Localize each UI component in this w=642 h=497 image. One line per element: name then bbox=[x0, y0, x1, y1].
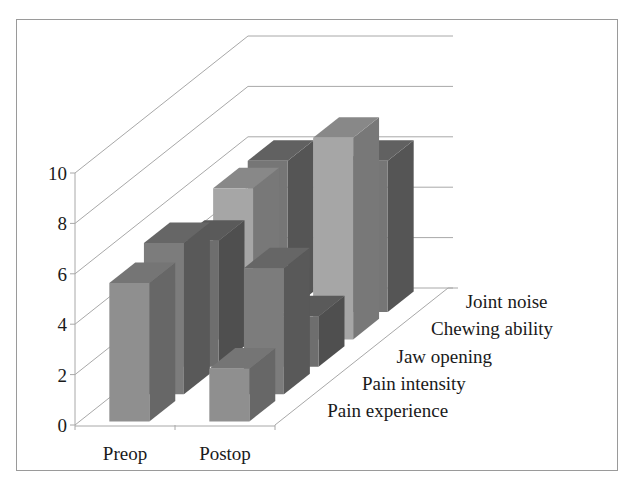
series-label: Jaw opening bbox=[397, 346, 493, 367]
category-label: Postop bbox=[199, 443, 251, 464]
bar-side bbox=[184, 222, 210, 394]
y-tick-label: 10 bbox=[48, 163, 67, 184]
bar-side bbox=[388, 140, 414, 312]
bar-front bbox=[109, 283, 149, 422]
chart-3d-bar: 0246810PreopPostopPain experiencePain in… bbox=[0, 0, 642, 497]
y-tick-label: 0 bbox=[58, 415, 68, 436]
bar-side bbox=[284, 248, 310, 395]
bar-side bbox=[149, 262, 175, 421]
category-label: Preop bbox=[103, 443, 147, 464]
y-tick-label: 4 bbox=[58, 314, 68, 335]
y-tick-label: 8 bbox=[58, 213, 68, 234]
series-label: Joint noise bbox=[466, 291, 548, 312]
bar-side bbox=[353, 117, 379, 339]
y-tick-label: 6 bbox=[58, 264, 68, 285]
series-label: Pain intensity bbox=[362, 373, 466, 394]
bar-front bbox=[209, 369, 249, 422]
bar-side bbox=[219, 220, 245, 367]
bar-preop-pain-experience bbox=[109, 262, 175, 421]
series-label: Pain experience bbox=[327, 400, 448, 421]
series-label: Chewing ability bbox=[431, 318, 553, 339]
y-tick-label: 2 bbox=[58, 365, 68, 386]
